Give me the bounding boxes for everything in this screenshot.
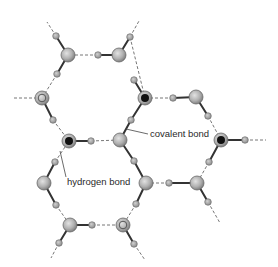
hydrogen-atom (131, 241, 138, 248)
oxygen-atom (63, 218, 77, 232)
ice-hydrogen-bond-diagram: covalent bond hydrogen bond (0, 0, 278, 267)
hydrogen-atom (95, 52, 102, 59)
hydrogen-bond (130, 37, 145, 98)
covalent-bond-label: covalent bond (150, 128, 209, 139)
oxygen-atom (116, 218, 130, 232)
hydrogen-atom (50, 117, 57, 124)
hydrogen-atom (54, 71, 61, 78)
hydrogen-bond-label: hydrogen bond (67, 176, 130, 187)
hydrogen-atom (53, 33, 60, 40)
hydrogen-atom (170, 95, 177, 102)
hydrogen-atom (206, 159, 213, 166)
oxygen-atom (139, 176, 153, 190)
hydrogen-atom (242, 137, 249, 144)
oxygen-atom (37, 176, 51, 190)
oxygen-atom (189, 90, 203, 104)
hydrogen-atom (88, 138, 95, 145)
hydrogen-atom (127, 34, 134, 41)
oxygen-atom (138, 91, 152, 105)
callout-leader-line (60, 151, 66, 177)
hydrogen-atom (56, 240, 63, 247)
hydrogen-atom (131, 77, 138, 84)
hydrogen-atom (205, 199, 212, 206)
oxygen-atom (35, 91, 49, 105)
hydrogen-atom (166, 180, 173, 187)
oxygen-atom (214, 133, 228, 147)
hydrogen-atom (131, 158, 138, 165)
hydrogen-bond (208, 202, 220, 223)
oxygen-atoms (35, 48, 228, 232)
hydrogen-atom (133, 201, 140, 208)
hydrogen-atom (128, 117, 135, 124)
oxygen-atom (113, 133, 127, 147)
oxygen-atom (62, 134, 76, 148)
oxygen-atom (61, 48, 75, 62)
hydrogen-atom (52, 159, 59, 166)
oxygen-atom (112, 48, 126, 62)
callout-leader-line (126, 129, 148, 134)
hydrogen-atom (53, 202, 60, 209)
hydrogen-atom (205, 113, 212, 120)
oxygen-atom (190, 176, 204, 190)
hydrogen-atom (89, 222, 96, 229)
